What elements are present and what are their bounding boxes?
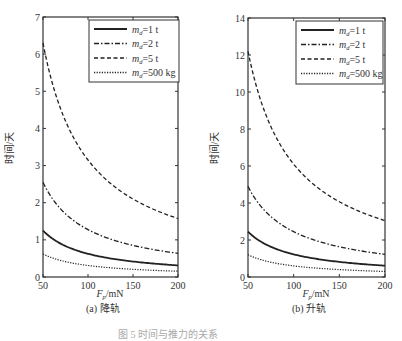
series-line [43, 182, 178, 253]
y-tick-label: 6 [35, 49, 40, 60]
figure-caption: 图 5 时间与推力的关系 [118, 326, 218, 341]
x-tick-label: 100 [286, 280, 301, 291]
y-tick-label: 6 [240, 161, 245, 172]
chart-descending-orbit: 0123456750100150200md=1 tmd=2 tmd=5 tmd=… [3, 12, 186, 316]
legend-label: md=1 t [132, 24, 159, 36]
legend-label: md=2 t [339, 39, 366, 51]
x-tick-label: 200 [378, 280, 393, 291]
x-axis-label: Fp/mN [301, 288, 329, 300]
y-axis-label: 时间/天 [3, 132, 15, 165]
y-tick-label: 10 [235, 87, 245, 98]
legend-label: md=2 t [132, 38, 159, 50]
series-line [248, 255, 385, 272]
x-tick-label: 100 [81, 280, 96, 291]
x-tick-label: 50 [38, 280, 48, 291]
legend-label: md=5 t [132, 53, 159, 65]
y-tick-label: 2 [35, 197, 40, 208]
y-tick-label: 3 [35, 160, 40, 171]
y-tick-label: 2 [240, 235, 245, 246]
x-tick-label: 50 [243, 280, 253, 291]
legend-label: md=5 t [339, 54, 366, 66]
y-tick-label: 8 [240, 124, 245, 135]
legend-label: md=1 t [339, 25, 366, 37]
x-axis-label: Fp/mN [95, 288, 123, 300]
legend-label: md=500 kg [339, 68, 383, 80]
x-tick-label: 150 [332, 280, 347, 291]
y-tick-label: 5 [35, 86, 40, 97]
series-line [43, 231, 178, 266]
y-tick-label: 7 [35, 12, 40, 23]
y-tick-label: 1 [35, 234, 40, 245]
y-axis-label: 时间/天 [208, 132, 220, 165]
x-tick-label: 200 [171, 280, 186, 291]
y-tick-label: 12 [235, 50, 245, 61]
series-line [43, 254, 178, 271]
series-line [248, 186, 385, 254]
series-line [248, 232, 385, 266]
chart-ascending-orbit: 0246810121450100150200md=1 tmd=2 tmd=5 t… [208, 13, 393, 316]
subfigure-caption: (b) 升轨 [292, 302, 326, 315]
legend-label: md=500 kg [132, 67, 176, 79]
y-tick-label: 4 [240, 198, 245, 209]
x-tick-label: 150 [126, 280, 141, 291]
y-tick-label: 4 [35, 123, 40, 134]
subfigure-caption: (a) 降轨 [86, 302, 120, 315]
y-tick-label: 14 [235, 13, 245, 24]
